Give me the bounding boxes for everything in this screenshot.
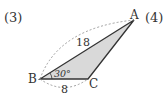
side-ab-label: 18	[76, 36, 90, 49]
vertex-b-label: B	[28, 72, 37, 86]
triangle-diagram: (3) (4) 18 8 30° A B C	[0, 0, 164, 98]
problem-number-3: (3)	[4, 10, 22, 25]
problem-number-4: (4)	[145, 10, 163, 25]
vertex-c-label: C	[89, 77, 98, 91]
vertex-a-label: A	[129, 8, 139, 22]
side-bc-label: 8	[61, 83, 68, 96]
angle-b-label: 30°	[54, 68, 71, 79]
